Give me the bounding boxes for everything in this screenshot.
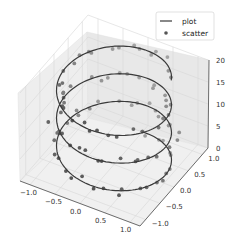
svg-text:−0.5: −0.5 [45, 198, 62, 206]
legend-dot-swatch [164, 31, 168, 35]
svg-text:−0.5: −0.5 [166, 203, 183, 211]
svg-text:0.5: 0.5 [194, 171, 205, 179]
svg-text:20: 20 [216, 57, 225, 65]
chart-3d-helix: −1.0−1.0−0.5−0.50.00.00.50.51.01.0051015… [0, 0, 239, 249]
axes-panes [18, 32, 209, 226]
legend-label-scatter: scatter [182, 29, 209, 38]
svg-text:0.0: 0.0 [180, 187, 191, 195]
svg-text:0.0: 0.0 [70, 208, 81, 216]
svg-text:0.5: 0.5 [95, 217, 106, 225]
svg-text:−1.0: −1.0 [152, 220, 169, 228]
svg-text:0: 0 [216, 145, 220, 153]
legend-label-plot: plot [182, 17, 196, 26]
svg-text:1.0: 1.0 [120, 226, 131, 234]
svg-text:5: 5 [216, 123, 220, 131]
svg-text:10: 10 [216, 101, 225, 109]
svg-text:1.0: 1.0 [208, 155, 219, 163]
svg-text:15: 15 [216, 79, 225, 87]
svg-text:−1.0: −1.0 [20, 189, 37, 197]
legend: plot scatter [156, 12, 214, 40]
